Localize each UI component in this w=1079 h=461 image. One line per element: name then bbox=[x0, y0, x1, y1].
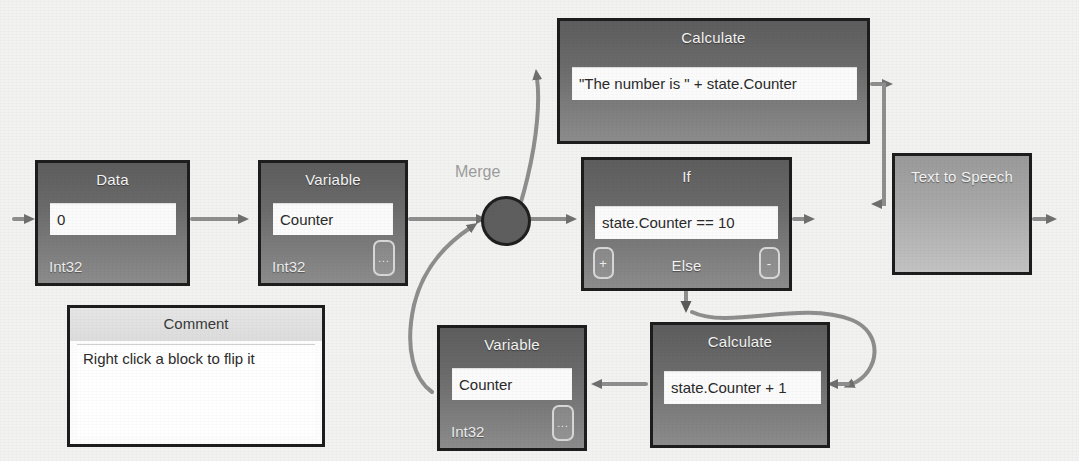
block-variable-1-value-input[interactable]: Counter bbox=[273, 203, 393, 235]
block-comment-title: Comment bbox=[70, 315, 322, 332]
block-variable-2[interactable]: Variable Counter Int32 ... bbox=[437, 325, 587, 451]
block-calculate-1[interactable]: Calculate "The number is " + state.Count… bbox=[557, 18, 870, 144]
block-comment[interactable]: Comment Right click a block to flip it bbox=[67, 305, 325, 447]
block-variable-1-title: Variable bbox=[261, 171, 405, 188]
block-variable-1-ellipsis-button[interactable]: ... bbox=[373, 240, 395, 276]
block-text-to-speech[interactable]: Text to Speech bbox=[892, 153, 1032, 275]
block-comment-text[interactable]: Right click a block to flip it bbox=[77, 344, 315, 437]
block-calculate-1-expression-input[interactable]: "The number is " + state.Counter bbox=[572, 67, 857, 100]
block-variable-2-value-input[interactable]: Counter bbox=[452, 368, 572, 400]
merge-node[interactable] bbox=[481, 196, 531, 246]
block-if[interactable]: If state.Counter == 10 Else + - bbox=[581, 157, 792, 291]
block-variable-1-type-label: Int32 bbox=[272, 258, 305, 275]
block-if-add-branch-button[interactable]: + bbox=[593, 247, 614, 279]
flow-diagram-canvas: Merge Data 0 Int32 Variable Counter Int3… bbox=[0, 0, 1079, 461]
block-if-condition-input[interactable]: state.Counter == 10 bbox=[595, 206, 778, 239]
block-if-remove-branch-button[interactable]: - bbox=[759, 247, 780, 279]
block-data-value-input[interactable]: 0 bbox=[50, 203, 176, 235]
block-data-type-label: Int32 bbox=[49, 258, 82, 275]
block-variable-1[interactable]: Variable Counter Int32 ... bbox=[258, 160, 408, 286]
block-calculate-2-title: Calculate bbox=[653, 333, 827, 350]
block-text-to-speech-title: Text to Speech bbox=[895, 168, 1029, 185]
block-calculate-1-title: Calculate bbox=[560, 29, 867, 46]
merge-label: Merge bbox=[455, 163, 500, 181]
block-data[interactable]: Data 0 Int32 bbox=[35, 160, 190, 286]
block-variable-2-type-label: Int32 bbox=[451, 423, 484, 440]
block-calculate-2-expression-input[interactable]: state.Counter + 1 bbox=[664, 371, 821, 404]
block-if-title: If bbox=[584, 168, 789, 185]
block-variable-2-title: Variable bbox=[440, 336, 584, 353]
block-data-title: Data bbox=[38, 171, 187, 188]
block-variable-2-ellipsis-button[interactable]: ... bbox=[552, 405, 574, 441]
block-calculate-2[interactable]: Calculate state.Counter + 1 bbox=[650, 322, 830, 448]
